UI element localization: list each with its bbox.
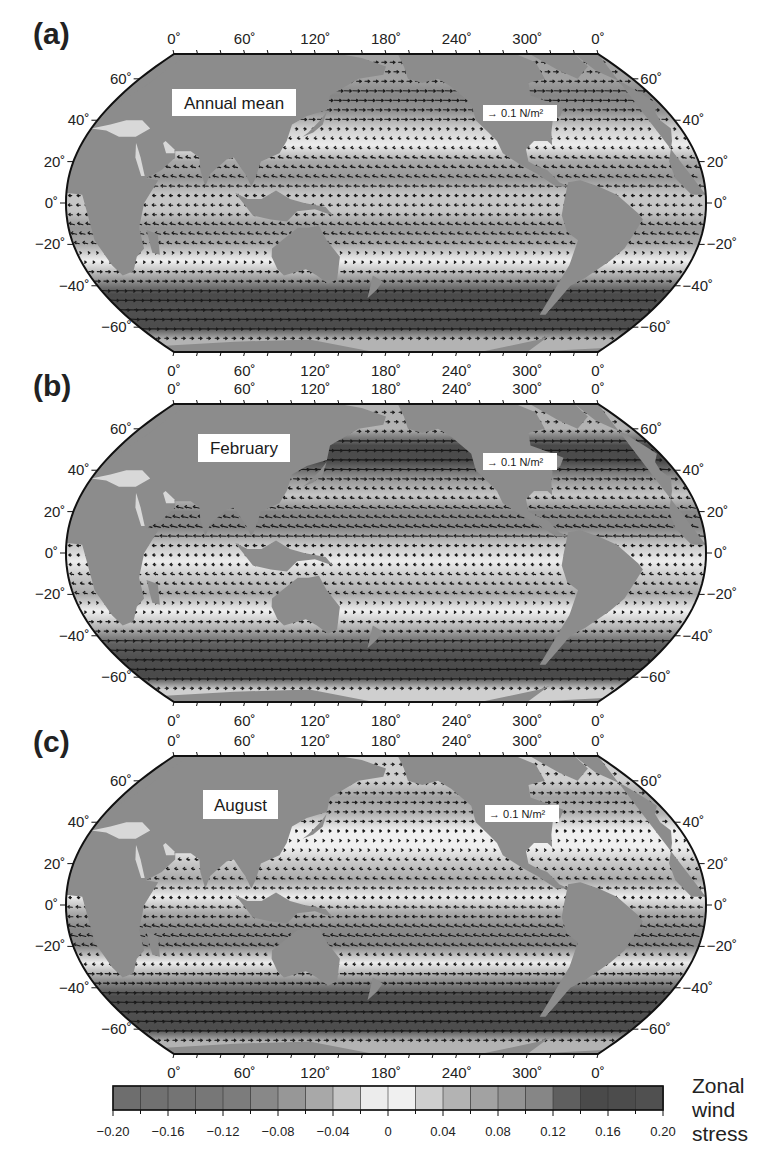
map-area (40, 404, 740, 706)
colorbar-tick-label: −0.20 (97, 1124, 130, 1139)
colorbar-tick-label: −0.04 (317, 1124, 350, 1139)
colorbar-cell (196, 1086, 224, 1110)
lat-tick-label-left: −20˚ (35, 585, 65, 602)
colorbar-cell (251, 1086, 279, 1110)
lat-tick-label-left: 40˚ (68, 111, 90, 128)
colorbar-title: wind (691, 1098, 735, 1121)
lat-tick-label-left: 20˚ (44, 855, 66, 872)
lat-tick-label-right: 20˚ (707, 153, 729, 170)
lon-tick-label-bottom: 0˚ (591, 362, 604, 379)
lon-tick-label-bottom: 0˚ (167, 362, 180, 379)
colorbar-tick-label: 0.20 (650, 1124, 675, 1139)
wind-stress-figure: 0˚0˚60˚60˚120˚120˚180˚180˚240˚240˚300˚30… (0, 0, 772, 1159)
lat-tick-label-left: −40˚ (59, 277, 89, 294)
lat-tick-label-left: −40˚ (59, 627, 89, 644)
lat-tick-label-left: 60˚ (110, 420, 132, 437)
lon-tick-label-bottom: 300˚ (512, 362, 542, 379)
lon-tick-label-top: 180˚ (371, 732, 401, 749)
lat-tick-label-right: −40˚ (683, 979, 713, 996)
lat-tick-label-right: 60˚ (640, 70, 662, 87)
panel-letter: (a) (33, 17, 70, 50)
lon-tick-label-bottom: 180˚ (371, 362, 401, 379)
colorbar-cell (553, 1086, 581, 1110)
lon-tick-label-bottom: 0˚ (591, 1064, 604, 1081)
colorbar-cell (498, 1086, 526, 1110)
lat-tick-label-left: −60˚ (101, 1020, 131, 1037)
panel-title: February (210, 439, 279, 458)
lon-tick-label-top: 120˚ (300, 30, 330, 47)
lon-tick-label-bottom: 300˚ (512, 1064, 542, 1081)
colorbar-tick-label: 0.08 (485, 1124, 510, 1139)
lon-tick-label-bottom: 180˚ (371, 712, 401, 729)
lon-tick-label-top: 60˚ (234, 30, 256, 47)
lat-tick-label-left: −20˚ (35, 937, 65, 954)
lat-tick-label-right: −60˚ (640, 668, 670, 685)
colorbar-cell (581, 1086, 609, 1110)
colorbar-cell (636, 1086, 664, 1110)
lon-tick-label-bottom: 300˚ (512, 712, 542, 729)
lon-tick-label-top: 0˚ (167, 732, 180, 749)
lat-tick-label-left: 20˚ (44, 153, 66, 170)
colorbar-cell (141, 1086, 169, 1110)
colorbar-tick-label: −0.16 (152, 1124, 185, 1139)
colorbar-tick-label: −0.08 (262, 1124, 295, 1139)
lon-tick-label-bottom: 180˚ (371, 1064, 401, 1081)
colorbar-cell (333, 1086, 361, 1110)
lat-tick-label-right: 60˚ (640, 772, 662, 789)
lon-tick-label-top: 0˚ (591, 380, 604, 397)
colorbar-cell (443, 1086, 471, 1110)
colorbar-cell (416, 1086, 444, 1110)
lon-tick-label-bottom: 120˚ (300, 362, 330, 379)
lon-tick-label-top: 120˚ (300, 380, 330, 397)
lon-tick-label-top: 240˚ (442, 380, 472, 397)
lon-tick-label-bottom: 0˚ (591, 712, 604, 729)
colorbar-cell (388, 1086, 416, 1110)
lat-tick-label-right: 0˚ (714, 194, 727, 211)
lon-tick-label-bottom: 120˚ (300, 1064, 330, 1081)
lon-tick-label-top: 240˚ (442, 732, 472, 749)
lon-tick-label-top: 60˚ (234, 380, 256, 397)
lon-tick-label-top: 180˚ (371, 30, 401, 47)
lon-tick-label-bottom: 0˚ (167, 712, 180, 729)
lon-tick-label-top: 0˚ (167, 380, 180, 397)
panel-letter: (c) (33, 725, 70, 758)
vector-scale-label: → 0.1 N/m² (487, 456, 544, 468)
lon-tick-label-top: 300˚ (512, 732, 542, 749)
lat-tick-label-right: 40˚ (683, 813, 705, 830)
colorbar-tick-label: 0.04 (430, 1124, 455, 1139)
colorbar-cell (608, 1086, 636, 1110)
colorbar-tick-label: 0.16 (595, 1124, 620, 1139)
lon-tick-label-top: 0˚ (591, 30, 604, 47)
lon-tick-label-top: 0˚ (167, 30, 180, 47)
lon-tick-label-bottom: 240˚ (442, 1064, 472, 1081)
lat-tick-label-right: 0˚ (714, 896, 727, 913)
colorbar-tick-label: 0.12 (540, 1124, 565, 1139)
panel-title: Annual mean (184, 94, 284, 113)
lon-tick-label-bottom: 0˚ (167, 1064, 180, 1081)
lon-tick-label-top: 120˚ (300, 732, 330, 749)
lon-tick-label-top: 60˚ (234, 732, 256, 749)
lat-tick-label-right: −60˚ (640, 318, 670, 335)
colorbar-cell (471, 1086, 499, 1110)
lat-tick-label-right: −20˚ (707, 937, 737, 954)
lat-tick-label-left: 40˚ (68, 461, 90, 478)
map-panel-1: 0˚0˚60˚60˚120˚120˚180˚180˚240˚240˚300˚30… (33, 369, 740, 729)
lon-tick-label-bottom: 60˚ (234, 1064, 256, 1081)
panel-title: August (214, 796, 267, 815)
lat-tick-label-right: −40˚ (683, 627, 713, 644)
lat-tick-label-left: 60˚ (110, 70, 132, 87)
lon-tick-label-bottom: 240˚ (442, 712, 472, 729)
lat-tick-label-right: −60˚ (640, 1020, 670, 1037)
lat-tick-label-right: 20˚ (707, 503, 729, 520)
map-area (40, 54, 740, 356)
lon-tick-label-bottom: 240˚ (442, 362, 472, 379)
lon-tick-label-top: 180˚ (371, 380, 401, 397)
colorbar-tick-label: 0 (384, 1124, 391, 1139)
map-panels: 0˚0˚60˚60˚120˚120˚180˚180˚240˚240˚300˚30… (33, 17, 740, 1081)
colorbar-cell (361, 1086, 389, 1110)
lat-tick-label-left: 60˚ (110, 772, 132, 789)
map-panel-2: 0˚0˚60˚60˚120˚120˚180˚180˚240˚240˚300˚30… (33, 725, 740, 1081)
lat-tick-label-left: −40˚ (59, 979, 89, 996)
lat-tick-label-left: 0˚ (45, 896, 58, 913)
lat-tick-label-right: 20˚ (707, 855, 729, 872)
